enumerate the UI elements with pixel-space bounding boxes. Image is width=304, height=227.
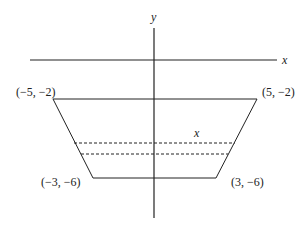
vertex-label-bottom-left: (−3, −6): [41, 175, 81, 189]
vertex-label-top-left: (−5, −2): [16, 85, 56, 99]
trapezoid-diagram: y x x (−5, −2) (5, −2) (−3, −6) (3, −6): [0, 0, 304, 227]
trapezoid: [53, 99, 257, 178]
x-axis-label: x: [281, 53, 288, 67]
strip-label: x: [193, 126, 200, 140]
vertex-label-top-right: (5, −2): [262, 85, 295, 99]
vertex-label-bottom-right: (3, −6): [231, 175, 264, 189]
y-axis-label: y: [150, 10, 157, 24]
